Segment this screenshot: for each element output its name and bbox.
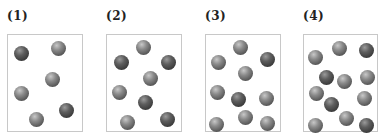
- particle-sphere: [308, 118, 323, 133]
- particle-sphere: [319, 70, 334, 85]
- particle-sphere: [29, 112, 44, 127]
- particle-sphere: [114, 55, 129, 70]
- particle-sphere: [231, 92, 246, 107]
- particle-sphere: [138, 95, 153, 110]
- particle-sphere: [259, 91, 274, 106]
- particle-sphere: [308, 50, 323, 65]
- particle-sphere: [120, 115, 135, 130]
- particle-sphere: [143, 71, 158, 86]
- particle-sphere: [339, 111, 354, 126]
- particle-sphere: [136, 40, 151, 55]
- particle-sphere: [14, 46, 29, 61]
- particle-sphere: [51, 41, 66, 56]
- particle-sphere: [45, 72, 60, 87]
- panel-label: (1): [7, 9, 28, 23]
- particle-sphere: [360, 70, 375, 85]
- panel-label: (4): [303, 9, 324, 23]
- particle-sphere: [238, 66, 253, 81]
- particle-sphere: [233, 40, 248, 55]
- particle-sphere: [160, 112, 175, 127]
- particle-sphere: [112, 85, 127, 100]
- particle-sphere: [260, 52, 275, 67]
- particle-sphere: [359, 43, 374, 58]
- particle-sphere: [161, 55, 176, 70]
- particle-sphere: [324, 97, 339, 112]
- particle-sphere: [14, 86, 29, 101]
- particle-sphere: [209, 117, 224, 132]
- panel-label: (2): [106, 9, 127, 23]
- particle-sphere: [210, 85, 225, 100]
- particle-sphere: [59, 103, 74, 118]
- panel-label: (3): [205, 9, 226, 23]
- particle-sphere: [260, 116, 275, 131]
- particle-sphere: [238, 110, 253, 125]
- particle-sphere: [337, 74, 352, 89]
- particle-sphere: [359, 118, 374, 133]
- particle-sphere: [211, 55, 226, 70]
- particle-sphere: [357, 91, 372, 106]
- particle-sphere: [309, 86, 324, 101]
- particle-sphere: [332, 41, 347, 56]
